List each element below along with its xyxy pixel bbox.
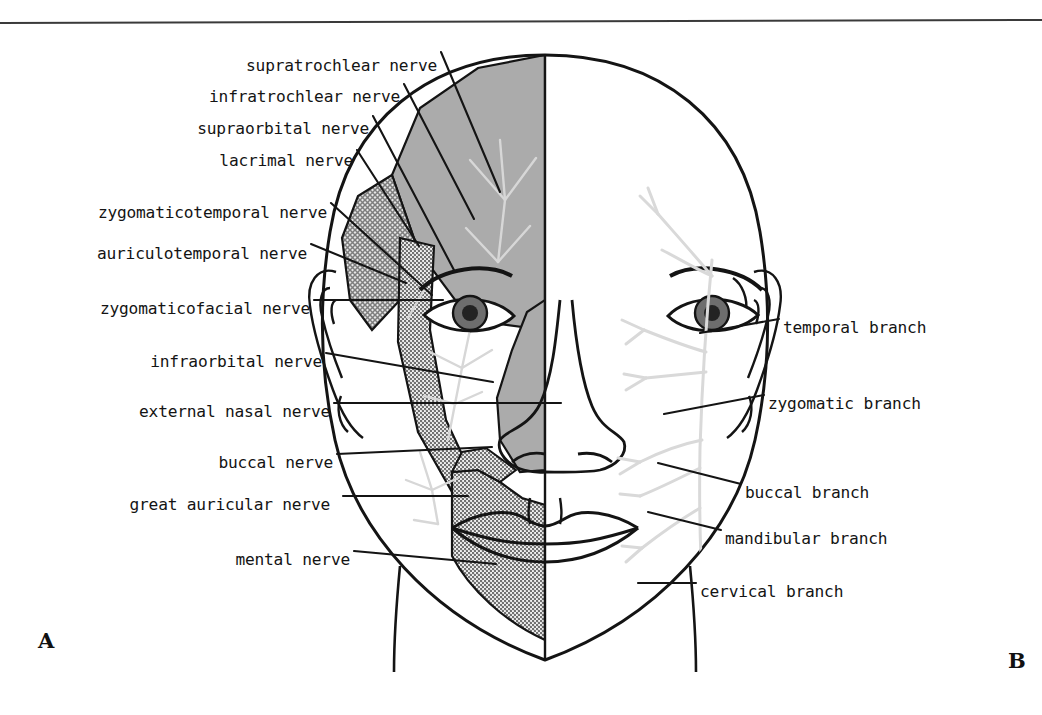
label-zygomatic-branch: zygomatic branch	[768, 396, 921, 412]
label-infratrochlear-nerve: infratrochlear nerve	[209, 89, 400, 105]
label-infraorbital-nerve: infraorbital nerve	[150, 354, 322, 370]
label-zygomaticofacial-nerve: zygomaticofacial nerve	[100, 301, 310, 317]
zone-maxillary	[497, 300, 545, 472]
leader-mandibular-branch	[648, 512, 721, 530]
label-lacrimal-nerve: lacrimal nerve	[219, 153, 353, 169]
label-buccal-branch: buccal branch	[745, 485, 869, 501]
label-external-nasal-nerve: external nasal nerve	[139, 404, 330, 420]
facial-nerve-branches	[618, 188, 712, 654]
label-great-auricular-nerve: great auricular nerve	[130, 497, 330, 513]
top-rule	[0, 20, 1042, 23]
pupil-left	[462, 305, 478, 321]
label-cervical-branch: cervical branch	[700, 584, 843, 600]
label-buccal-nerve: buccal nerve	[218, 455, 333, 471]
label-zygomaticotemporal-nerve: zygomaticotemporal nerve	[98, 205, 327, 221]
label-mandibular-branch: mandibular branch	[725, 531, 887, 547]
brow-right	[670, 268, 762, 290]
anatomy-figure: supratrochlear nerveinfratrochlear nerve…	[0, 0, 1042, 715]
label-supratrochlear-nerve: supratrochlear nerve	[246, 58, 437, 74]
label-mental-nerve: mental nerve	[235, 552, 350, 568]
label-auriculotemporal-nerve: auriculotemporal nerve	[97, 246, 307, 262]
label-temporal-branch: temporal branch	[783, 320, 926, 336]
panel-letter-a: A	[38, 628, 54, 653]
label-supraorbital-nerve: supraorbital nerve	[197, 121, 369, 137]
panel-letter-b: B	[1008, 648, 1026, 673]
